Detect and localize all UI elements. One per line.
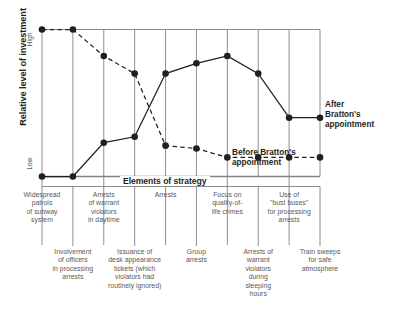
x-tick-label-line: Use of bbox=[260, 191, 318, 199]
annotation-before-line1: Before Bratton's bbox=[232, 148, 296, 158]
data-point bbox=[100, 139, 107, 146]
x-tick-label-line: Widespread bbox=[13, 191, 71, 199]
data-point bbox=[162, 142, 169, 149]
x-tick-label-line: hours bbox=[226, 290, 290, 298]
data-point bbox=[193, 145, 200, 152]
data-point bbox=[70, 173, 77, 180]
data-point bbox=[317, 154, 324, 161]
data-point bbox=[162, 70, 169, 77]
x-tick-label-line: of officers bbox=[41, 256, 105, 264]
x-tick-label-line: of subway bbox=[13, 208, 71, 216]
x-tick-label-line: routinely ignored) bbox=[103, 282, 167, 290]
x-tick-label: Focus onquality-of-life crimes bbox=[198, 191, 256, 216]
data-point bbox=[131, 134, 138, 141]
x-tick-label-line: violators bbox=[226, 265, 290, 273]
data-point bbox=[131, 70, 138, 77]
data-point bbox=[286, 114, 293, 121]
x-tick-label: Use of"bust buses"for processingarrests bbox=[260, 191, 318, 225]
annotation-before-bratton: Before Bratton's appointment bbox=[232, 148, 296, 168]
x-tick-label-line: violators bbox=[75, 208, 133, 216]
x-tick-label-line: "bust buses" bbox=[260, 199, 318, 207]
y-axis-title: Relative level of investment bbox=[18, 0, 28, 142]
x-tick-label-line: life crimes bbox=[198, 208, 256, 216]
x-tick-label: Arrests ofwarrantviolatorsduringsleeping… bbox=[226, 248, 290, 298]
data-point bbox=[70, 26, 77, 33]
x-tick-label: Arrestsof warrantviolatorsin daytime bbox=[75, 191, 133, 225]
x-tick-label-line: Arrests bbox=[137, 191, 195, 199]
x-tick-label-line: patrols bbox=[13, 199, 71, 207]
x-tick-label-line: arrests bbox=[41, 273, 105, 281]
annotation-before-line2: appointment bbox=[232, 158, 296, 168]
x-tick-label-line: warrant bbox=[226, 256, 290, 264]
data-point bbox=[224, 154, 231, 161]
x-tick-label-line: system bbox=[13, 216, 71, 224]
data-point bbox=[39, 173, 46, 180]
x-tick-label-line: Arrests bbox=[75, 191, 133, 199]
x-tick-label-line: during bbox=[226, 273, 290, 281]
x-tick-label-line: in processing bbox=[41, 265, 105, 273]
x-tick-label-line: arrests bbox=[164, 256, 228, 264]
x-tick-label: Train sweepsfor safeatmosphere bbox=[288, 248, 352, 273]
x-tick-label: Grouparrests bbox=[164, 248, 228, 265]
x-tick-label-line: Train sweeps bbox=[288, 248, 352, 256]
x-tick-label-line: Involvement bbox=[41, 248, 105, 256]
x-tick-label: Involvementof officersin processingarres… bbox=[41, 248, 105, 282]
series-line bbox=[42, 30, 320, 158]
x-tick-label-line: Issuance of bbox=[103, 248, 167, 256]
x-tick-label-line: Focus on bbox=[198, 191, 256, 199]
x-tick-label: Issuance ofdesk appearancetickets (which… bbox=[103, 248, 167, 290]
x-tick-label-line: for safe bbox=[288, 256, 352, 264]
y-axis-high-label: High bbox=[26, 29, 33, 51]
x-tick-label: Widespreadpatrolsof subwaysystem bbox=[13, 191, 71, 225]
annotation-after-line1: After bbox=[325, 100, 374, 110]
data-point bbox=[255, 70, 262, 77]
x-tick-label-line: tickets (which bbox=[103, 265, 167, 273]
data-point bbox=[193, 60, 200, 67]
x-tick-label-line: atmosphere bbox=[288, 265, 352, 273]
y-axis-low-label: Low bbox=[26, 153, 33, 175]
x-tick-label-line: violators had bbox=[103, 273, 167, 281]
x-tick-label-line: of warrant bbox=[75, 199, 133, 207]
data-point bbox=[100, 53, 107, 60]
x-tick-label-line: desk appearance bbox=[103, 256, 167, 264]
strategy-canvas-figure: Relative level of investment High Low El… bbox=[0, 0, 396, 326]
x-tick-label: Arrests bbox=[137, 191, 195, 199]
data-point bbox=[39, 26, 46, 33]
x-axis-title: Elements of strategy bbox=[120, 176, 210, 186]
series-before bbox=[39, 26, 324, 160]
x-tick-label-line: sleeping bbox=[226, 282, 290, 290]
data-point bbox=[317, 114, 324, 121]
x-tick-label-line: quality-of- bbox=[198, 199, 256, 207]
x-tick-label-line: Arrests of bbox=[226, 248, 290, 256]
annotation-after-bratton: After Bratton's appointment bbox=[325, 100, 374, 131]
annotation-after-line2: Bratton's bbox=[325, 110, 374, 120]
x-tick-label-line: in daytime bbox=[75, 216, 133, 224]
x-tick-label-line: for processing bbox=[260, 208, 318, 216]
annotation-after-line3: appointment bbox=[325, 120, 374, 130]
x-tick-label-line: Group bbox=[164, 248, 228, 256]
data-point bbox=[224, 53, 231, 60]
x-tick-label-line: arrests bbox=[260, 216, 318, 224]
